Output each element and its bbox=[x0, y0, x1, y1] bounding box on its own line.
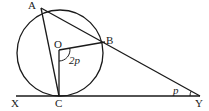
radius-ob bbox=[59, 42, 105, 50]
angle-label-2p: 2p bbox=[69, 54, 81, 66]
angle-label-p: p bbox=[172, 84, 179, 96]
label-y: Y bbox=[195, 97, 203, 109]
angle-arc-y bbox=[190, 91, 191, 96]
secant-line-ay bbox=[41, 8, 200, 96]
label-c: C bbox=[55, 97, 62, 109]
label-o: O bbox=[54, 38, 62, 50]
label-b: B bbox=[106, 34, 113, 46]
label-x: X bbox=[11, 97, 19, 109]
label-a: A bbox=[28, 0, 36, 11]
circle bbox=[17, 10, 103, 96]
chord-ac bbox=[41, 8, 59, 96]
diagram-canvas: A B O C X Y 2p p bbox=[0, 0, 209, 111]
geometry-diagram: A B O C X Y 2p p bbox=[0, 0, 209, 111]
